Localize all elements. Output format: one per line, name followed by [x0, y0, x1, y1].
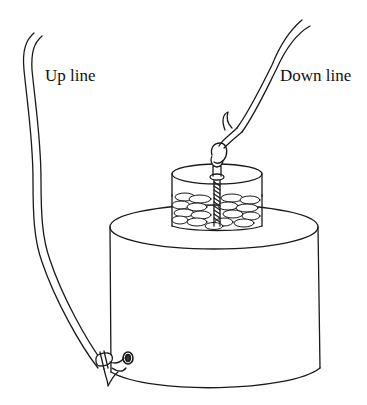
up-line-knot [96, 351, 133, 386]
up-line-label: Up line [45, 66, 96, 86]
stone-basket [172, 164, 262, 231]
main-cylinder [110, 205, 320, 388]
down-line-label: Down line [280, 66, 351, 86]
buoy-weight-diagram [0, 0, 367, 405]
